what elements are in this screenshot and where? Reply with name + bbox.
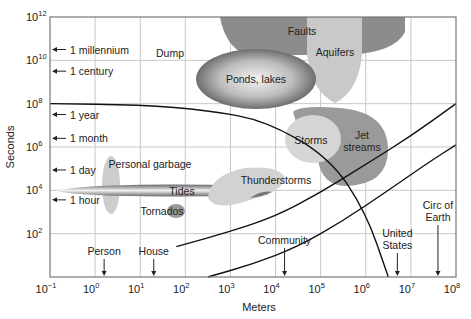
length-marker-label: Community <box>258 234 312 246</box>
x-tick-label: 100 <box>83 281 99 295</box>
time-marker-label: 1 year <box>70 109 100 121</box>
time-marker-label: 1 month <box>70 132 108 144</box>
time-marker-label: 1 century <box>70 65 114 77</box>
region-label: Tornados <box>140 205 183 217</box>
arrow-down-icon <box>102 271 107 276</box>
x-axis-label: Meters <box>242 301 276 313</box>
y-tick-label: 108 <box>26 96 42 110</box>
region-label: Storms <box>294 134 327 146</box>
length-marker-label: House <box>139 245 170 257</box>
arrow-down-icon <box>151 271 156 276</box>
length-marker-label: Circ ofEarth <box>423 199 453 223</box>
region-label: Dump <box>156 47 184 59</box>
x-tick-label: 107 <box>399 281 415 295</box>
arrow-down-icon <box>395 271 400 276</box>
y-tick-label: 106 <box>26 139 42 153</box>
time-marker-label: 1 hour <box>70 194 100 206</box>
time-marker-label: 1 millennium <box>70 44 129 56</box>
region-label: Faults <box>288 25 317 37</box>
region-label: Ponds, lakes <box>226 73 286 85</box>
x-tick-label: 103 <box>218 281 234 295</box>
arrow-down-icon <box>435 271 440 276</box>
length-marker-label: UnitedStates <box>382 227 413 251</box>
x-tick-label: 104 <box>263 281 279 295</box>
y-tick-label: 104 <box>26 182 42 196</box>
arrow-left-icon <box>52 47 57 52</box>
length-marker-label: Person <box>87 245 120 257</box>
x-tick-label: 101 <box>128 281 144 295</box>
y-axis-label: Seconds <box>4 125 16 168</box>
y-tick-label: 1012 <box>26 9 47 23</box>
chart: 10−1100101102103104105106107108102104106… <box>0 0 471 319</box>
y-tick-label: 102 <box>26 226 42 240</box>
x-tick-label: 10−1 <box>36 281 57 295</box>
x-tick-label: 102 <box>173 281 189 295</box>
arrow-down-icon <box>282 271 287 276</box>
region-label: Aquifers <box>316 46 355 58</box>
x-tick-label: 105 <box>308 281 324 295</box>
x-tick-label: 106 <box>354 281 370 295</box>
x-tick-label: 108 <box>444 281 460 295</box>
arrow-left-icon <box>52 112 57 117</box>
arrow-left-icon <box>52 69 57 74</box>
time-marker-label: 1 day <box>70 164 96 176</box>
arrow-left-icon <box>52 167 57 172</box>
arrow-left-icon <box>52 197 57 202</box>
arrow-left-icon <box>52 136 57 141</box>
y-tick-label: 1010 <box>26 52 47 66</box>
region-label: Personal garbage <box>109 158 192 170</box>
region-label: Thunderstorms <box>241 174 312 186</box>
region-label: Tides <box>169 185 194 197</box>
